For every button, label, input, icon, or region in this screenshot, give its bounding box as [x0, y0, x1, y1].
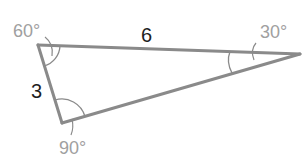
angle-label-c: 30°: [260, 22, 287, 42]
side-label-ac: 6: [141, 24, 152, 46]
angle-arc-c: [228, 52, 232, 74]
side-ac: [38, 45, 300, 54]
angle-label-b: 90°: [59, 138, 86, 158]
triangle-diagram: 6 3 60° 90° 30°: [0, 0, 308, 162]
side-bc: [62, 54, 300, 123]
angle-label-a: 60°: [13, 21, 40, 41]
side-label-ab: 3: [31, 80, 42, 102]
